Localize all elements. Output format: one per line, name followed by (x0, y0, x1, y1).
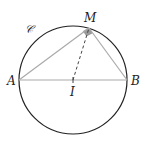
label-a: A (6, 74, 16, 88)
label-i: I (69, 85, 75, 99)
segment-mb (89, 28, 127, 80)
segment-im-dashed (73, 28, 89, 80)
geometry-figure: M A B I 𝒞 (0, 0, 143, 146)
label-b: B (130, 74, 140, 88)
figure-canvas: M A B I 𝒞 (0, 0, 143, 146)
label-circle-c: 𝒞 (25, 23, 36, 36)
label-m: M (83, 11, 97, 25)
